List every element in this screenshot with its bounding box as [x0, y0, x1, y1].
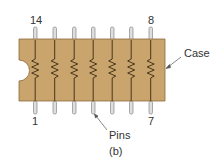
- bottom-pins: [34, 101, 153, 114]
- pin-1-label: 1: [32, 116, 38, 127]
- pin-8-label: 8: [148, 15, 154, 26]
- figure-caption: (b): [109, 146, 122, 157]
- pins-label: Pins: [109, 130, 130, 141]
- case-label: Case: [184, 48, 210, 59]
- top-pins: [34, 27, 153, 40]
- pin-7-label: 7: [148, 116, 154, 127]
- pin-14-label: 14: [30, 15, 42, 26]
- ic-case: [19, 39, 165, 101]
